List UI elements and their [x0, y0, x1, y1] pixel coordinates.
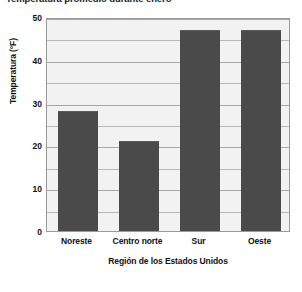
x-axis-title: Región de los Estados Unidos [46, 256, 290, 266]
x-axis-tick-labels: NoresteCentro norteSurOeste [46, 236, 290, 252]
chart-figure: Temperatura promedio durante enero Tempe… [0, 0, 302, 292]
x-tick-label: Noreste [61, 236, 92, 246]
x-tick-label: Sur [192, 236, 206, 246]
plot-area [46, 18, 290, 232]
gridline-major [47, 19, 289, 20]
bar [180, 30, 220, 231]
bar [241, 30, 281, 231]
y-tick-label: 20 [2, 141, 42, 151]
x-tick-label: Oeste [248, 236, 271, 246]
x-tick-label: Centro norte [113, 236, 163, 246]
chart-title: Temperatura promedio durante enero [6, 0, 296, 4]
y-tick-label: 10 [2, 184, 42, 194]
y-tick-label: 0 [2, 227, 42, 237]
y-tick-label: 40 [2, 56, 42, 66]
bar [58, 111, 98, 231]
y-axis-tick-labels: 01020304050 [0, 18, 42, 232]
bar [119, 141, 159, 231]
y-tick-label: 30 [2, 99, 42, 109]
y-tick-label: 50 [2, 13, 42, 23]
